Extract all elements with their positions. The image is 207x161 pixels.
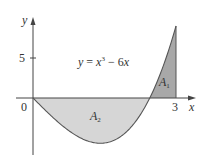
y-axis-label: y: [21, 13, 28, 27]
equation-label: y = x3 − 6x: [77, 55, 130, 69]
y-axis-arrow-icon: [31, 17, 36, 25]
x-axis-label: x: [188, 100, 195, 114]
function-graph: y 5 0 3 x y = x3 − 6x A1 A2: [0, 0, 207, 161]
y-tick-label: 5: [19, 51, 25, 65]
origin-label: 0: [21, 100, 27, 114]
x-tick-label: 3: [172, 100, 178, 114]
